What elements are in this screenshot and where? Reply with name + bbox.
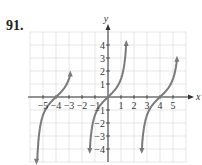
svg-text:−3: −3 (64, 100, 75, 111)
svg-text:4: 4 (100, 40, 105, 51)
svg-text:2: 2 (100, 66, 105, 77)
svg-text:3: 3 (100, 53, 105, 64)
svg-text:x: x (195, 91, 201, 102)
svg-text:2: 2 (132, 100, 137, 111)
svg-text:1: 1 (119, 100, 124, 111)
svg-text:−2: −2 (77, 100, 88, 111)
svg-text:−3: −3 (94, 131, 105, 142)
svg-text:3: 3 (145, 100, 150, 111)
svg-text:−4: −4 (51, 100, 62, 111)
svg-text:−1: −1 (94, 105, 105, 116)
chart: −5−4−3−2−1123454321−1−2−3−4xy (0, 0, 202, 165)
svg-text:y: y (103, 13, 109, 24)
svg-text:−2: −2 (94, 118, 105, 129)
svg-text:5: 5 (171, 100, 176, 111)
svg-text:−5: −5 (38, 100, 49, 111)
svg-text:−4: −4 (94, 144, 105, 155)
svg-text:4: 4 (158, 100, 163, 111)
svg-text:1: 1 (100, 79, 105, 90)
